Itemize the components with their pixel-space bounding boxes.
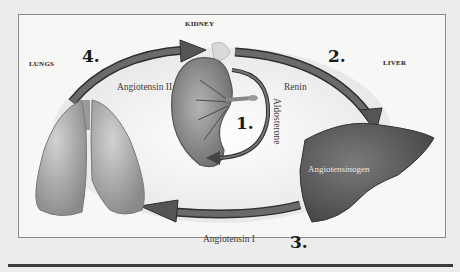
diagram-artwork (0, 0, 460, 272)
step-1: 1. (236, 113, 254, 133)
angiotensin-i-label: Angiotensin I (203, 234, 255, 244)
renin-label: Renin (284, 82, 307, 92)
step-2: 2. (328, 46, 346, 66)
aldosterone-label: Aldosterone (272, 98, 282, 144)
bottom-divider (8, 264, 453, 267)
kidney-label: KIDNEY (185, 20, 214, 28)
step-4: 4. (82, 46, 100, 66)
angiotensin-ii-label: Angiotensin II (117, 82, 172, 92)
step-3: 3. (290, 232, 308, 252)
liver-label: LIVER (383, 59, 406, 67)
angiotensinogen-label: Angiotensinogen (308, 164, 370, 174)
lungs-label: LUNGS (29, 60, 54, 68)
